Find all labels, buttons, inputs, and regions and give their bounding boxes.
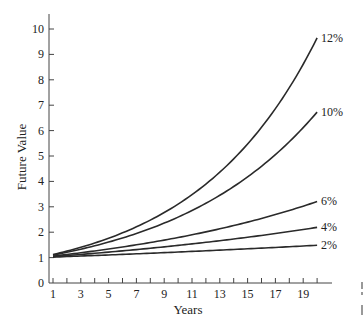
x-tick-label: 9 [161, 287, 167, 301]
curve-12pct [53, 38, 317, 255]
y-tick-label: 0 [38, 276, 44, 290]
y-tick-label: 6 [38, 124, 44, 138]
y-tick-label: 1 [38, 251, 44, 265]
x-tick-label: 1 [50, 287, 56, 301]
x-tick-label: 17 [269, 287, 281, 301]
series-label-4pct: 4% [321, 220, 337, 234]
y-tick-label: 10 [32, 22, 44, 36]
y-tick-label: 4 [38, 174, 44, 188]
series-label-10pct: 10% [321, 105, 343, 119]
x-tick-label: 13 [214, 287, 226, 301]
y-tick-label: 3 [38, 200, 44, 214]
x-axis-label: Years [173, 302, 202, 317]
y-axis-ticks: 012345678910 [32, 22, 54, 290]
x-tick-label: 3 [78, 287, 84, 301]
y-tick-label: 9 [38, 47, 44, 61]
future-value-chart: 012345678910 135791113151719 12%10%6%4%2… [0, 0, 364, 328]
y-tick-label: 7 [38, 98, 44, 112]
y-tick-label: 8 [38, 73, 44, 87]
y-tick-label: 2 [38, 225, 44, 239]
series-labels: 12%10%6%4%2% [321, 31, 343, 252]
x-tick-label: 19 [297, 287, 309, 301]
y-tick-label: 5 [38, 149, 44, 163]
curves [53, 38, 317, 257]
x-axis-ticks: 135791113151719 [50, 278, 317, 301]
series-label-12pct: 12% [321, 31, 343, 45]
series-label-2pct: 2% [321, 238, 337, 252]
x-tick-label: 5 [106, 287, 112, 301]
x-tick-label: 15 [242, 287, 254, 301]
y-axis-label: Future Value [14, 123, 29, 190]
x-tick-label: 7 [133, 287, 139, 301]
axes [49, 14, 332, 283]
x-tick-label: 11 [186, 287, 198, 301]
series-label-6pct: 6% [321, 194, 337, 208]
